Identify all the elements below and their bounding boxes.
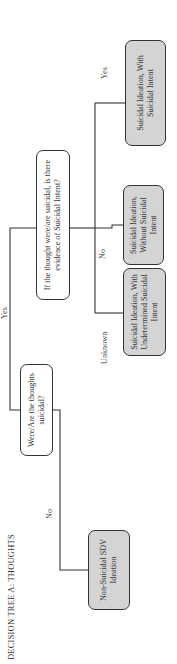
outcome-text: Suicidal Ideation, With Undetermined Sui… bbox=[130, 272, 160, 352]
outcome-node-non-suicidal: Non-Suicidal SDV Ideation bbox=[88, 530, 130, 610]
outcome-text: Non-Suicidal SDV Ideation bbox=[99, 534, 119, 606]
decision-tree-diagram: DECISION TREE A: THOUGHTS Were/Are the t… bbox=[0, 0, 177, 664]
outcome-text: Suicidal Ideation, With Suicidal Intent bbox=[136, 44, 156, 142]
diagram-title: DECISION TREE A: THOUGHTS bbox=[6, 534, 16, 660]
question-text: If the thought were/are suicidal, is the… bbox=[43, 154, 63, 296]
outcome-node-without-intent: Suicidal Ideation, Without Suicidal Inte… bbox=[123, 185, 164, 265]
question-text: Were/Are the thoughts suicidal? bbox=[27, 368, 47, 452]
edge-label-yes: Yes bbox=[100, 67, 109, 79]
edge-label-yes: Yes bbox=[0, 307, 9, 319]
outcome-text: Suicidal Ideation, Without Suicidal Inte… bbox=[129, 189, 159, 261]
question-node-thoughts-suicidal: Were/Are the thoughts suicidal? bbox=[20, 364, 53, 456]
edge-label-unknown: Unknown bbox=[100, 332, 109, 364]
edge-label-no: No bbox=[98, 249, 107, 259]
outcome-node-undetermined-intent: Suicidal Ideation, With Undetermined Sui… bbox=[123, 268, 166, 356]
edge-label-no: No bbox=[45, 509, 54, 519]
outcome-node-with-intent: Suicidal Ideation, With Suicidal Intent bbox=[125, 40, 166, 146]
question-node-suicidal-intent: If the thought were/are suicidal, is the… bbox=[36, 150, 70, 300]
